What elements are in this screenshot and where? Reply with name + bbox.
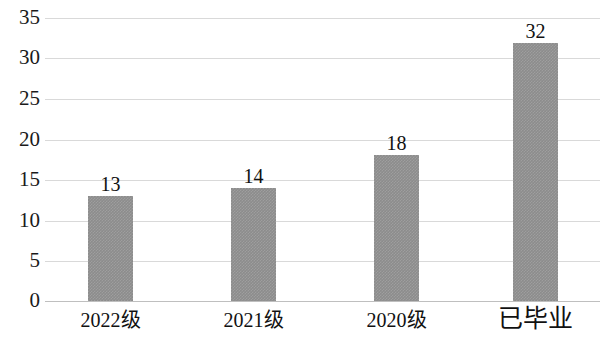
x-axis-category-label-graduated: 已毕业 (475, 305, 596, 333)
bar-series-0-item-1[interactable] (231, 188, 276, 301)
x-axis-category-label-2020: 2020级 (336, 308, 457, 332)
y-axis-tick-label: 0 (4, 290, 40, 311)
y-axis-tick-label: 30 (4, 47, 40, 68)
x-axis-category-label-2021: 2021级 (193, 308, 314, 332)
bar-value-label: 14 (223, 166, 284, 186)
x-axis-category-label-2022: 2022级 (50, 308, 171, 332)
bar-value-label: 13 (80, 174, 141, 194)
bar-chart: 35 30 25 20 15 10 5 0 13 14 18 32 2022级 … (0, 0, 606, 338)
gridline-baseline-0 (45, 301, 600, 302)
y-axis-tick-label: 10 (4, 210, 40, 231)
bar-series-0-item-2[interactable] (374, 155, 419, 301)
bar-value-label: 32 (505, 21, 566, 41)
bar-series-0-item-3[interactable] (513, 43, 558, 301)
y-axis-tick-label: 25 (4, 88, 40, 109)
y-axis-tick-label: 15 (4, 169, 40, 190)
bar-series-0-item-0[interactable] (88, 196, 133, 301)
y-axis-tick-label: 20 (4, 129, 40, 150)
y-axis-tick-label: 5 (4, 250, 40, 271)
bar-value-label: 18 (366, 133, 427, 153)
gridline-35 (45, 18, 600, 19)
y-axis-tick-label: 35 (4, 7, 40, 28)
